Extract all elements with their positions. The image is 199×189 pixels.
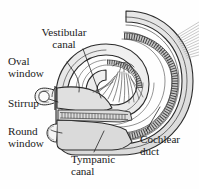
- label-oval-window: Oval window: [8, 56, 72, 79]
- label-vestibular-canal: Vestibular canal: [28, 27, 100, 50]
- basilar-membrane-striped-band: [58, 110, 132, 122]
- label-tympanic-canal: Tympanic canal: [71, 154, 141, 177]
- cochlea-diagram: Vestibular canal Oval window Stirrup Rou…: [0, 0, 199, 189]
- label-cochlear-duct: Cochlear duct: [140, 134, 198, 157]
- label-stirrup: Stirrup: [8, 98, 66, 110]
- label-round-window: Round window: [8, 126, 70, 149]
